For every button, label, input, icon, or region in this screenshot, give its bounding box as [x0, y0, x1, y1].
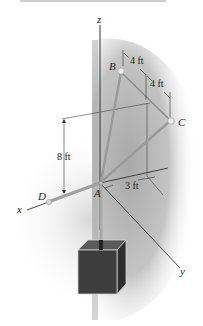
x-axis-label: x: [17, 204, 22, 215]
point-a-label: A: [94, 188, 101, 199]
statics-diagram: z x y A B C D 4 ft 4 ft 8 ft 3 ft: [0, 0, 203, 326]
point-d-label: D: [38, 191, 46, 202]
weight-block: [78, 240, 126, 294]
joint-c-icon: [168, 118, 174, 124]
dim-label-b-4ft: 4 ft: [130, 56, 144, 66]
y-axis-label: y: [180, 266, 185, 277]
joint-a-icon: [99, 181, 103, 185]
z-axis-label: z: [97, 14, 101, 25]
dim-label-8ft: 8 ft: [57, 152, 71, 162]
point-c-label: C: [178, 117, 185, 128]
dim-label-3ft: 3 ft: [125, 181, 139, 191]
diagram-canvas: [0, 0, 203, 326]
joint-b-icon: [118, 68, 124, 74]
joint-d-icon: [46, 199, 51, 204]
point-b-label: B: [109, 61, 116, 72]
dim-label-c-4ft: 4 ft: [150, 79, 164, 89]
